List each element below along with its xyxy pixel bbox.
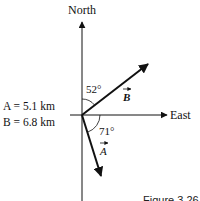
angle-label-71: 71° <box>99 125 114 137</box>
svg-text:B: B <box>122 91 130 103</box>
given-a-magnitude: A = 5.1 km <box>3 100 55 112</box>
svg-text:A: A <box>99 145 107 157</box>
vector-a-label: A <box>99 143 108 157</box>
figure-caption: Figure 3.26 <box>143 194 199 201</box>
east-label: East <box>170 108 191 122</box>
north-label: North <box>68 3 96 17</box>
angle-arc-52 <box>82 99 95 105</box>
angle-label-52: 52° <box>86 83 101 95</box>
vector-b-label: B <box>122 89 131 103</box>
given-b-magnitude: B = 6.8 km <box>3 116 55 128</box>
vector-diagram: North East 52° 71° B A A = 5.1 km B = 6.… <box>0 0 200 201</box>
